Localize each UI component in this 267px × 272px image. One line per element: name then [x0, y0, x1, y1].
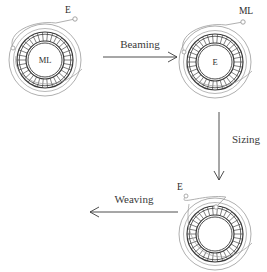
thread-end-label: E: [177, 182, 183, 192]
hatch-line: [212, 81, 213, 90]
arrow-beaming: Beaming: [103, 38, 177, 62]
hatch-line: [234, 229, 243, 231]
arrow-sizing: Sizing: [214, 112, 261, 180]
hatch-line: [50, 33, 52, 42]
hatch-line: [194, 43, 201, 49]
hatch-line: [217, 253, 218, 262]
hatch-line: [229, 43, 236, 49]
hatch-line: [17, 63, 26, 65]
arrow-label-sizing: Sizing: [232, 133, 261, 145]
bobbin-core-circle: [198, 217, 232, 251]
hatch-line: [47, 79, 48, 88]
hatch-line: [64, 55, 73, 57]
hatch-line: [229, 215, 236, 221]
hatch-line: [229, 247, 236, 253]
thread-end-node: [241, 20, 245, 24]
hatch-line: [220, 35, 222, 44]
thread-start-node: [11, 46, 15, 50]
hatch-line: [59, 73, 66, 79]
hatch-line: [187, 229, 196, 231]
hatch-line: [212, 206, 213, 215]
bobbin-ml: MLE: [9, 5, 82, 96]
hatch-line: [207, 207, 209, 216]
thread-start-node: [182, 50, 186, 54]
arrow-label-beaming: Beaming: [120, 38, 160, 50]
hatch-line: [207, 80, 209, 89]
thread-end-node: [214, 205, 218, 209]
hatch-line: [24, 73, 31, 79]
hatch-line: [194, 215, 201, 221]
bobbin-center-label: E: [212, 57, 217, 67]
hatch-line: [50, 78, 52, 87]
hatch-line: [42, 32, 43, 41]
hatch-line: [234, 57, 243, 59]
hatch-line: [17, 55, 26, 57]
bobbin-center-label: ML: [39, 55, 52, 65]
thread-spiral: [184, 196, 226, 207]
hatch-line: [217, 34, 218, 43]
arrow-label-weaving: Weaving: [115, 193, 154, 205]
hatch-line: [212, 253, 213, 262]
process-cycle-diagram: MLEEMLE BeamingSizingWeaving: [0, 0, 267, 272]
thread-end-label: ML: [239, 6, 253, 16]
hatch-line: [207, 35, 209, 44]
hatch-line: [64, 63, 73, 65]
hatch-line: [187, 65, 196, 67]
hatch-line: [234, 237, 243, 239]
hatch-line: [187, 57, 196, 59]
hatch-line: [234, 65, 243, 67]
thread-end-node: [73, 17, 77, 21]
bobbin-empty: E: [177, 182, 252, 270]
hatch-line: [37, 33, 39, 42]
arrow-group: BeamingSizingWeaving: [90, 38, 261, 217]
hatch-line: [47, 32, 48, 41]
hatch-line: [212, 34, 213, 43]
hatch-line: [187, 237, 196, 239]
thread-start-node: [184, 194, 188, 198]
thread-end-label: E: [65, 5, 71, 15]
hatch-line: [24, 41, 31, 47]
diagram-canvas: MLEEMLE BeamingSizingWeaving: [0, 0, 267, 272]
bobbin-e: EML: [179, 6, 253, 98]
hatch-line: [220, 80, 222, 89]
hatch-line: [217, 81, 218, 90]
hatch-line: [194, 247, 201, 253]
arrow-weaving: Weaving: [90, 193, 178, 217]
hatch-line: [59, 41, 66, 47]
hatch-line: [229, 75, 236, 81]
hatch-line: [220, 207, 222, 216]
